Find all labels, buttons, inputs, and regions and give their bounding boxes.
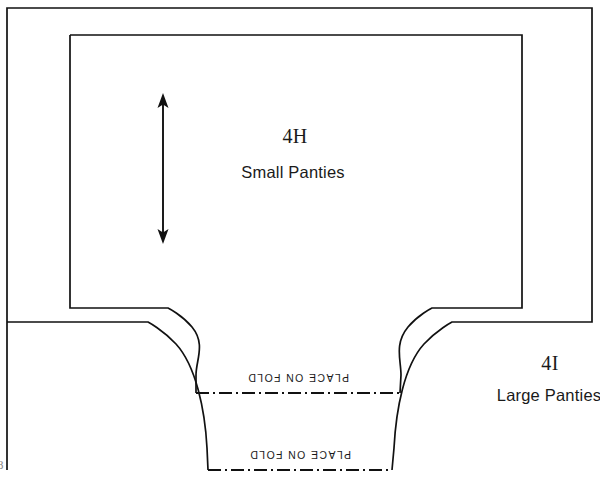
pattern-diagram: 4H Small Panties 4I Large Panties PLACE … xyxy=(0,0,600,480)
pattern-outline-canvas xyxy=(0,0,600,480)
piece-name-small-panties: Small Panties xyxy=(241,164,344,181)
piece-code-4i: 4I xyxy=(541,353,558,373)
piece-code-4h: 4H xyxy=(282,126,307,146)
page-number: 8 xyxy=(0,458,4,471)
small-panties-outline xyxy=(70,35,522,393)
small-panties-outline-left xyxy=(70,35,199,393)
fold-label-small-panties: PLACE ON FOLD xyxy=(247,372,349,383)
fold-label-large-panties: PLACE ON FOLD xyxy=(249,449,351,460)
piece-name-large-panties: Large Panties xyxy=(497,387,600,404)
large-panties-outline-left xyxy=(7,322,208,470)
